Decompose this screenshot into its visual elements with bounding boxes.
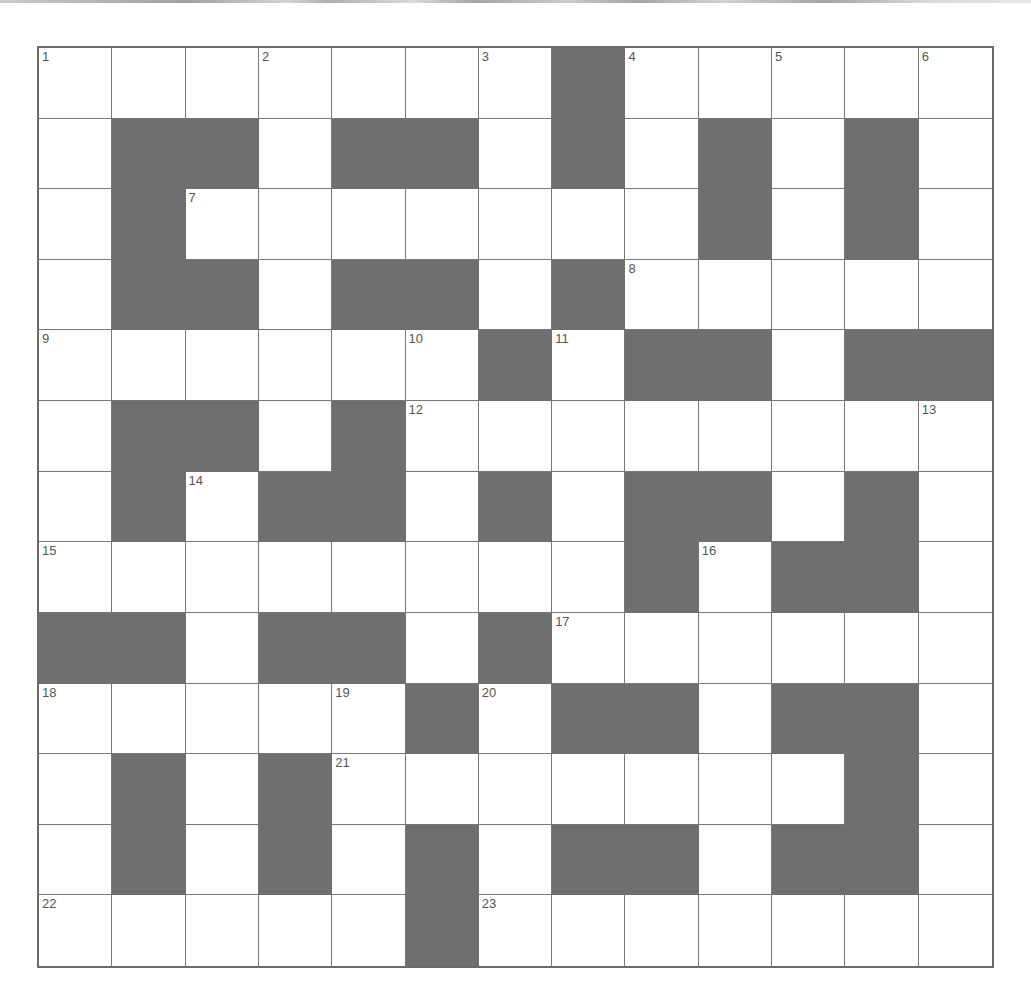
answer-cell[interactable]: 7 (186, 189, 259, 260)
answer-cell[interactable]: 23 (479, 895, 552, 966)
answer-cell[interactable] (186, 684, 259, 755)
answer-cell[interactable] (772, 401, 845, 472)
answer-cell[interactable] (919, 260, 992, 331)
answer-cell[interactable] (479, 542, 552, 613)
answer-cell[interactable] (39, 189, 112, 260)
answer-cell[interactable]: 9 (39, 330, 112, 401)
answer-cell[interactable]: 16 (699, 542, 772, 613)
answer-cell[interactable] (699, 895, 772, 966)
answer-cell[interactable] (259, 684, 332, 755)
answer-cell[interactable] (332, 189, 405, 260)
answer-cell[interactable] (112, 684, 185, 755)
answer-cell[interactable]: 17 (552, 613, 625, 684)
answer-cell[interactable] (112, 48, 185, 119)
answer-cell[interactable] (552, 189, 625, 260)
answer-cell[interactable] (699, 684, 772, 755)
answer-cell[interactable] (406, 48, 479, 119)
answer-cell[interactable] (772, 613, 845, 684)
answer-cell[interactable] (919, 754, 992, 825)
answer-cell[interactable] (772, 189, 845, 260)
answer-cell[interactable]: 5 (772, 48, 845, 119)
answer-cell[interactable]: 20 (479, 684, 552, 755)
answer-cell[interactable] (919, 895, 992, 966)
answer-cell[interactable] (186, 754, 259, 825)
answer-cell[interactable] (332, 895, 405, 966)
answer-cell[interactable]: 6 (919, 48, 992, 119)
answer-cell[interactable] (39, 119, 112, 190)
answer-cell[interactable]: 12 (406, 401, 479, 472)
answer-cell[interactable]: 11 (552, 330, 625, 401)
answer-cell[interactable]: 10 (406, 330, 479, 401)
answer-cell[interactable] (919, 542, 992, 613)
answer-cell[interactable] (772, 472, 845, 543)
answer-cell[interactable] (479, 119, 552, 190)
answer-cell[interactable] (772, 260, 845, 331)
answer-cell[interactable] (186, 895, 259, 966)
answer-cell[interactable] (479, 401, 552, 472)
answer-cell[interactable] (552, 472, 625, 543)
answer-cell[interactable] (406, 613, 479, 684)
answer-cell[interactable] (845, 48, 918, 119)
answer-cell[interactable]: 3 (479, 48, 552, 119)
answer-cell[interactable] (186, 542, 259, 613)
answer-cell[interactable]: 15 (39, 542, 112, 613)
answer-cell[interactable] (479, 754, 552, 825)
answer-cell[interactable] (919, 189, 992, 260)
answer-cell[interactable] (406, 542, 479, 613)
answer-cell[interactable] (259, 189, 332, 260)
answer-cell[interactable] (186, 825, 259, 896)
answer-cell[interactable] (772, 754, 845, 825)
answer-cell[interactable]: 4 (625, 48, 698, 119)
answer-cell[interactable] (772, 895, 845, 966)
answer-cell[interactable]: 21 (332, 754, 405, 825)
answer-cell[interactable] (479, 825, 552, 896)
answer-cell[interactable] (39, 825, 112, 896)
answer-cell[interactable] (479, 189, 552, 260)
answer-cell[interactable] (332, 48, 405, 119)
answer-cell[interactable] (186, 613, 259, 684)
answer-cell[interactable] (625, 895, 698, 966)
answer-cell[interactable] (845, 260, 918, 331)
answer-cell[interactable] (919, 613, 992, 684)
answer-cell[interactable] (332, 542, 405, 613)
answer-cell[interactable] (259, 119, 332, 190)
answer-cell[interactable] (259, 895, 332, 966)
answer-cell[interactable] (699, 260, 772, 331)
answer-cell[interactable] (479, 260, 552, 331)
answer-cell[interactable] (406, 754, 479, 825)
answer-cell[interactable] (919, 472, 992, 543)
answer-cell[interactable]: 19 (332, 684, 405, 755)
answer-cell[interactable]: 22 (39, 895, 112, 966)
answer-cell[interactable] (39, 754, 112, 825)
answer-cell[interactable] (112, 895, 185, 966)
answer-cell[interactable]: 18 (39, 684, 112, 755)
answer-cell[interactable] (919, 684, 992, 755)
answer-cell[interactable]: 8 (625, 260, 698, 331)
answer-cell[interactable] (552, 754, 625, 825)
answer-cell[interactable] (625, 119, 698, 190)
answer-cell[interactable] (919, 825, 992, 896)
answer-cell[interactable] (919, 119, 992, 190)
answer-cell[interactable] (699, 48, 772, 119)
answer-cell[interactable] (625, 401, 698, 472)
answer-cell[interactable] (259, 542, 332, 613)
answer-cell[interactable] (625, 754, 698, 825)
answer-cell[interactable] (186, 48, 259, 119)
answer-cell[interactable] (625, 189, 698, 260)
answer-cell[interactable] (552, 895, 625, 966)
answer-cell[interactable]: 14 (186, 472, 259, 543)
answer-cell[interactable] (259, 330, 332, 401)
answer-cell[interactable] (39, 260, 112, 331)
answer-cell[interactable] (259, 260, 332, 331)
answer-cell[interactable] (39, 401, 112, 472)
answer-cell[interactable] (39, 472, 112, 543)
answer-cell[interactable] (332, 825, 405, 896)
answer-cell[interactable] (112, 330, 185, 401)
answer-cell[interactable] (699, 825, 772, 896)
answer-cell[interactable] (552, 542, 625, 613)
answer-cell[interactable] (552, 401, 625, 472)
answer-cell[interactable] (845, 613, 918, 684)
answer-cell[interactable]: 1 (39, 48, 112, 119)
answer-cell[interactable] (845, 895, 918, 966)
answer-cell[interactable] (772, 330, 845, 401)
